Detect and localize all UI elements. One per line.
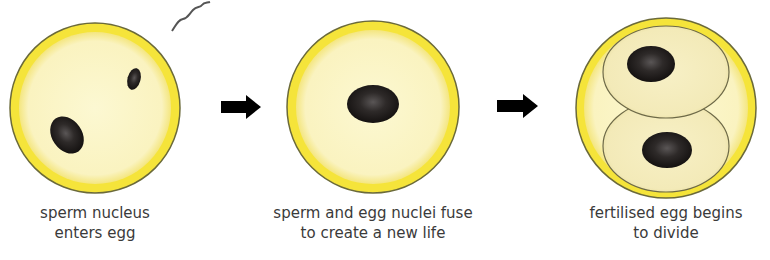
- egg-cytoplasm: [19, 32, 171, 184]
- egg-cell-stage-2: [287, 21, 459, 193]
- caption-stage-3: fertilised egg begins to divide: [546, 203, 770, 243]
- egg-cell-stage-1: [10, 2, 210, 193]
- caption-line-1: fertilised egg begins: [546, 203, 770, 223]
- nucleus-top: [627, 46, 675, 82]
- egg-cell-stage-3: [576, 18, 756, 198]
- caption-stage-1: sperm nucleus enters egg: [0, 203, 215, 243]
- caption-line-2: to divide: [546, 223, 770, 243]
- caption-line-2: to create a new life: [253, 223, 493, 243]
- caption-stage-2: sperm and egg nuclei fuse to create a ne…: [253, 203, 493, 243]
- caption-line-1: sperm and egg nuclei fuse: [253, 203, 493, 223]
- caption-line-1: sperm nucleus: [0, 203, 215, 223]
- fused-nucleus: [347, 85, 399, 123]
- arrow-right-icon: [497, 94, 538, 118]
- nucleus-bottom: [642, 132, 692, 168]
- arrow-right-icon: [221, 95, 261, 119]
- sperm-tail: [172, 2, 210, 31]
- caption-line-2: enters egg: [0, 223, 215, 243]
